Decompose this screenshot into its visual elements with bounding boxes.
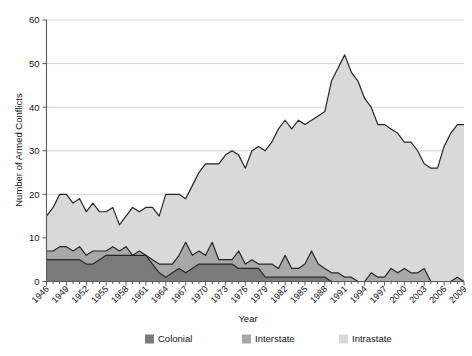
- x-tick-label: 1982: [268, 284, 289, 305]
- x-tick-label: 1976: [228, 284, 249, 305]
- armed-conflicts-area-chart: 0102030405060 19461949195219551958196119…: [0, 0, 472, 356]
- x-tick-label: 1997: [368, 284, 389, 305]
- y-tick-label: 20: [29, 189, 40, 200]
- x-tick-label: 1946: [30, 284, 51, 305]
- x-tick-label: 1955: [89, 284, 110, 305]
- x-tick-label: 1961: [129, 284, 150, 305]
- x-tick-label: 1952: [69, 284, 90, 305]
- y-axis-title: Number of Armed Conflicts: [13, 93, 24, 207]
- x-tick-label: 1958: [109, 284, 130, 305]
- area-series-intrastate: [47, 55, 465, 282]
- y-tick-label: 60: [29, 14, 40, 25]
- x-axis-ticks: 1946194919521955195819611964196719701973…: [30, 282, 469, 306]
- x-tick-label: 1988: [308, 284, 329, 305]
- y-axis-ticks: 0102030405060: [29, 14, 47, 287]
- x-tick-label: 2009: [447, 284, 468, 305]
- x-tick-label: 1970: [189, 284, 210, 305]
- legend-label-colonial: Colonial: [158, 333, 192, 344]
- y-tick-label: 10: [29, 232, 40, 243]
- x-axis-title: Year: [238, 313, 257, 324]
- x-tick-label: 2000: [388, 284, 409, 305]
- x-tick-label: 2006: [427, 284, 448, 305]
- x-tick-label: 1979: [248, 284, 269, 305]
- chart-canvas: 0102030405060 19461949195219551958196119…: [0, 0, 472, 356]
- x-tick-label: 1973: [209, 284, 230, 305]
- legend-swatch-colonial: [145, 335, 154, 344]
- x-tick-label: 1949: [50, 284, 71, 305]
- x-tick-label: 2003: [407, 284, 428, 305]
- legend-swatch-intrastate: [339, 335, 348, 344]
- legend-swatch-interstate: [242, 335, 251, 344]
- x-tick-label: 1967: [169, 284, 190, 305]
- y-tick-label: 30: [29, 145, 40, 156]
- stacked-area-series: [47, 55, 465, 282]
- legend-label-intrastate: Intrastate: [352, 333, 392, 344]
- x-tick-label: 1991: [328, 284, 349, 305]
- y-tick-label: 40: [29, 102, 40, 113]
- x-tick-label: 1994: [348, 284, 369, 305]
- legend-label-interstate: Interstate: [255, 333, 295, 344]
- y-tick-label: 0: [34, 276, 39, 287]
- x-tick-label: 1985: [288, 284, 309, 305]
- x-tick-label: 1964: [149, 284, 170, 305]
- y-tick-label: 50: [29, 58, 40, 69]
- chart-legend: ColonialInterstateIntrastate: [145, 333, 392, 344]
